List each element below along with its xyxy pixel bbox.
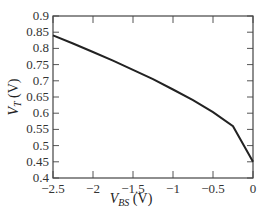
y-tick-label: 0.6	[33, 105, 50, 120]
y-tick-label: 0.45	[26, 154, 49, 169]
vt-curve	[53, 35, 253, 161]
y-tick-label: 0.85	[26, 24, 49, 39]
x-tick-label: −1	[166, 181, 180, 196]
x-tick-label: 0	[250, 181, 257, 196]
y-tick-label: 0.7	[33, 73, 50, 88]
plot-frame	[53, 16, 253, 178]
y-tick-label: 0.65	[26, 89, 49, 104]
y-tick-label: 0.8	[33, 40, 49, 55]
x-axis-label: VBS (V)	[110, 191, 153, 208]
y-tick-label: 0.9	[33, 8, 49, 23]
y-axis-ticks: 0.40.450.50.550.60.650.70.750.80.850.9	[26, 8, 253, 185]
threshold-voltage-chart: 0.40.450.50.550.60.650.70.750.80.850.9 −…	[0, 0, 266, 219]
y-tick-label: 0.55	[26, 121, 49, 136]
y-tick-label: 0.75	[26, 57, 49, 72]
y-axis-label: VT (V)	[6, 78, 23, 115]
x-tick-label: −2.5	[41, 181, 65, 196]
x-tick-label: −0.5	[201, 181, 225, 196]
x-tick-label: −2	[86, 181, 100, 196]
y-tick-label: 0.5	[33, 138, 49, 153]
